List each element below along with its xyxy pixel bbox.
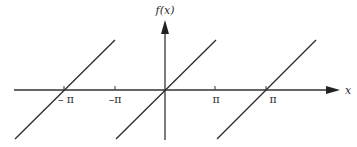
tick-label-1: – π [58,93,74,106]
x-axis-label: x [345,84,352,97]
diagram-svg: – π –π π π x f(x) [0,0,357,147]
y-axis-label: f(x) [155,4,175,17]
tick-label-2: –π [109,93,122,106]
tick-label-4: π [269,93,276,106]
x-axis-arrow-icon [326,86,340,94]
y-axis-arrow-icon [161,20,169,34]
periodic-sawtooth-diagram: – π –π π π x f(x) [0,0,357,147]
tick-label-3: π [212,93,219,106]
